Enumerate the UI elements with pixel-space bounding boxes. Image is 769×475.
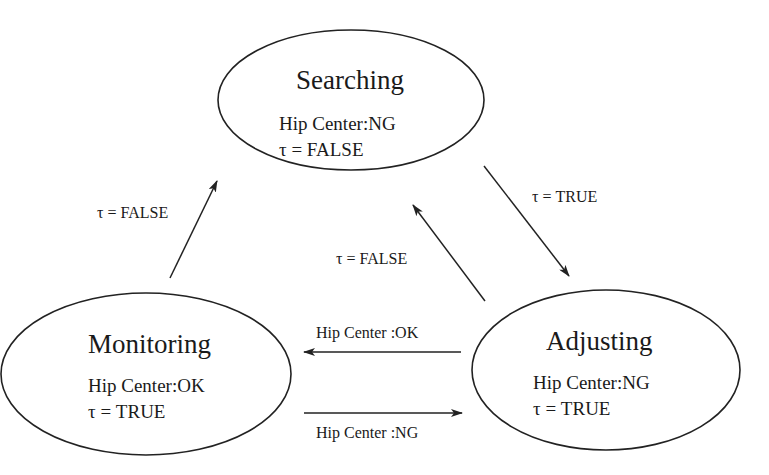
state-monitoring-ellipse	[1, 293, 291, 455]
state-monitoring: Monitoring Hip Center:OK τ = TRUE	[1, 293, 291, 455]
transition-monitoring-to-searching: τ = FALSE	[97, 181, 217, 278]
arrow-adjusting-to-searching	[413, 205, 485, 301]
state-adjusting: Adjusting Hip Center:NG τ = TRUE	[472, 290, 740, 450]
state-searching: Searching Hip Center:NG τ = FALSE	[218, 30, 484, 170]
transition-adjusting-to-monitoring-label: Hip Center :OK	[316, 324, 419, 342]
transition-adjusting-to-monitoring: Hip Center :OK	[304, 324, 461, 352]
state-adjusting-ellipse	[472, 290, 740, 450]
state-monitoring-title: Monitoring	[88, 329, 211, 359]
transition-monitoring-to-adjusting: Hip Center :NG	[304, 413, 462, 442]
state-adjusting-title: Adjusting	[546, 326, 653, 356]
state-searching-title: Searching	[296, 65, 404, 95]
arrow-searching-to-adjusting	[484, 166, 569, 276]
transition-searching-to-adjusting-label: τ = TRUE	[532, 188, 597, 205]
state-searching-tau: τ = FALSE	[279, 139, 364, 160]
transition-monitoring-to-adjusting-label: Hip Center :NG	[316, 424, 419, 442]
arrow-monitoring-to-searching	[170, 181, 217, 278]
state-monitoring-hip-center: Hip Center:OK	[88, 375, 205, 396]
transition-adjusting-to-searching: τ = FALSE	[336, 205, 485, 301]
state-searching-hip-center: Hip Center:NG	[279, 113, 396, 134]
state-monitoring-tau: τ = TRUE	[88, 401, 165, 422]
transition-searching-to-adjusting: τ = TRUE	[484, 166, 597, 276]
state-adjusting-hip-center: Hip Center:NG	[533, 372, 650, 393]
state-adjusting-tau: τ = TRUE	[533, 398, 610, 419]
transition-monitoring-to-searching-label: τ = FALSE	[97, 204, 168, 221]
transition-adjusting-to-searching-label: τ = FALSE	[336, 250, 407, 267]
state-diagram: Searching Hip Center:NG τ = FALSE Monito…	[0, 0, 769, 475]
